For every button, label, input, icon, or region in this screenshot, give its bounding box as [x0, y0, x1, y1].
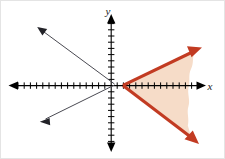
y-axis-group — [107, 14, 115, 152]
thin-v-lower-left-ray — [46, 85, 115, 119]
thin-v-line-group — [37, 27, 114, 125]
x-axis-label: x — [207, 80, 213, 92]
thin-v-upper-left-ray — [42, 31, 115, 85]
thin-v-upper-left-arrowhead — [37, 27, 47, 36]
y-axis-label: y — [105, 5, 111, 17]
thin-v-lower-left-arrowhead — [40, 118, 50, 125]
x-axis-right-arrowhead — [197, 81, 207, 89]
coordinate-plane-svg: x y — [1, 1, 225, 159]
graph-figure: x y — [0, 0, 225, 159]
y-axis-down-arrowhead — [107, 143, 115, 153]
x-axis-left-arrowhead — [9, 81, 19, 89]
